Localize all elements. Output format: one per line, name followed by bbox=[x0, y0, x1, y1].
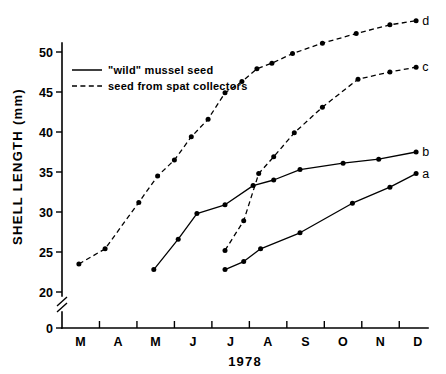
data-point-b-0 bbox=[151, 267, 156, 272]
y-tick-label-25: 25 bbox=[39, 246, 53, 260]
series-line-c bbox=[225, 67, 416, 250]
legend-label-dashed: seed from spat collectors bbox=[108, 80, 248, 92]
figure-container: 020253035404550 MAMJJASOND dcba "wild" m… bbox=[0, 0, 446, 374]
y-tick-label-0: 0 bbox=[46, 322, 53, 336]
data-point-b-6 bbox=[298, 167, 303, 172]
series-label-a: a bbox=[422, 167, 429, 181]
data-point-d-12 bbox=[320, 41, 325, 46]
data-point-b-8 bbox=[376, 157, 381, 162]
y-tick-label-50: 50 bbox=[39, 46, 53, 60]
data-point-d-15 bbox=[414, 18, 419, 23]
data-point-b-9 bbox=[414, 150, 419, 155]
y-axis: 020253035404550 bbox=[39, 43, 67, 336]
y-tick-label-40: 40 bbox=[39, 126, 53, 140]
x-axis: MAMJJASOND bbox=[62, 321, 428, 349]
x-tick-label-march: M bbox=[75, 335, 86, 349]
x-tick-label-may: M bbox=[150, 335, 161, 349]
shell-length-line-chart: 020253035404550 MAMJJASOND dcba "wild" m… bbox=[0, 0, 446, 374]
data-point-c-6 bbox=[356, 77, 361, 82]
data-point-c-0 bbox=[223, 248, 228, 253]
data-point-a-0 bbox=[223, 267, 228, 272]
x-tick-label-april: A bbox=[113, 335, 123, 349]
x-tick-label-june: J bbox=[189, 335, 196, 349]
y-tick-label-35: 35 bbox=[39, 166, 53, 180]
y-tick-label-20: 20 bbox=[39, 286, 53, 300]
data-point-c-2 bbox=[256, 171, 261, 176]
x-tick-label-september: S bbox=[301, 335, 310, 349]
data-point-d-1 bbox=[103, 246, 108, 251]
data-point-a-4 bbox=[350, 201, 355, 206]
x-tick-label-august: A bbox=[263, 335, 273, 349]
series-label-d: d bbox=[422, 14, 429, 28]
series-label-c: c bbox=[422, 60, 428, 74]
data-point-a-2 bbox=[258, 246, 263, 251]
series-label-b: b bbox=[422, 145, 429, 159]
x-tick-label-december: D bbox=[413, 335, 423, 349]
data-point-d-6 bbox=[206, 117, 211, 122]
x-axis-title: 1978 bbox=[228, 354, 262, 369]
data-point-d-10 bbox=[269, 61, 274, 66]
data-point-b-2 bbox=[194, 211, 199, 216]
data-point-c-7 bbox=[387, 70, 392, 75]
y-tick-label-45: 45 bbox=[39, 86, 53, 100]
data-point-c-8 bbox=[414, 65, 419, 70]
data-point-d-4 bbox=[172, 158, 177, 163]
data-point-b-4 bbox=[251, 183, 256, 188]
legend-label-solid: "wild" mussel seed bbox=[108, 64, 213, 76]
y-axis-title: SHELL LENGTH (mm) bbox=[10, 88, 25, 245]
y-tick-label-30: 30 bbox=[39, 206, 53, 220]
data-point-d-5 bbox=[189, 134, 194, 139]
data-point-a-1 bbox=[241, 259, 246, 264]
data-point-d-2 bbox=[136, 200, 141, 205]
data-point-d-13 bbox=[354, 31, 359, 36]
data-point-d-11 bbox=[290, 51, 295, 56]
data-point-d-9 bbox=[254, 66, 259, 71]
x-tick-label-october: O bbox=[338, 335, 348, 349]
data-point-c-3 bbox=[271, 154, 276, 159]
series-line-d bbox=[79, 21, 416, 264]
data-point-d-3 bbox=[155, 174, 160, 179]
data-point-d-0 bbox=[76, 262, 81, 267]
data-point-c-1 bbox=[241, 218, 246, 223]
series-line-b bbox=[154, 152, 416, 270]
x-tick-label-november: N bbox=[376, 335, 386, 349]
data-series-group: dcba bbox=[76, 14, 429, 272]
chart-legend: "wild" mussel seedseed from spat collect… bbox=[72, 64, 248, 92]
data-point-b-5 bbox=[271, 178, 276, 183]
data-point-a-3 bbox=[298, 230, 303, 235]
data-point-a-5 bbox=[387, 185, 392, 190]
data-point-c-4 bbox=[292, 130, 297, 135]
data-point-b-7 bbox=[341, 161, 346, 166]
data-point-a-6 bbox=[414, 171, 419, 176]
x-tick-label-july: J bbox=[227, 335, 234, 349]
data-point-b-1 bbox=[176, 237, 181, 242]
data-point-b-3 bbox=[223, 202, 228, 207]
data-point-c-5 bbox=[320, 105, 325, 110]
data-point-d-14 bbox=[387, 22, 392, 27]
